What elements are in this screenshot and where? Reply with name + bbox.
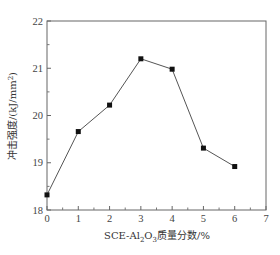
data-point-marker <box>138 56 143 61</box>
data-point-marker <box>45 192 50 197</box>
data-point-marker <box>107 103 112 108</box>
axis-ticks <box>47 21 266 210</box>
y-axis-title: 冲击强度/(kJ/mm2) <box>6 72 18 160</box>
data-point-marker <box>232 164 237 169</box>
data-point-marker <box>170 67 175 72</box>
y-tick-label: 22 <box>33 16 44 27</box>
x-tick-label: 7 <box>263 213 268 224</box>
y-tick-labels: 1819202122 <box>33 16 44 216</box>
plot-frame <box>47 21 266 210</box>
x-tick-label: 3 <box>138 213 143 224</box>
y-tick-label: 18 <box>33 205 44 216</box>
x-tick-label: 1 <box>76 213 81 224</box>
y-tick-label: 19 <box>33 157 44 168</box>
y-tick-label: 21 <box>33 63 44 74</box>
x-tick-label: 2 <box>107 213 112 224</box>
x-tick-label: 4 <box>170 213 176 224</box>
data-point-marker <box>201 146 206 151</box>
series-markers <box>45 56 238 197</box>
data-point-marker <box>76 129 81 134</box>
x-tick-label: 6 <box>232 213 237 224</box>
x-tick-labels: 01234567 <box>44 213 268 224</box>
x-axis-title: SCE-Al2O3质量分数/% <box>104 229 210 244</box>
y-tick-label: 20 <box>33 110 44 121</box>
line-chart: 01234567 1819202122 SCE-Al2O3质量分数/% 冲击强度… <box>0 0 280 255</box>
plot-border <box>47 21 266 210</box>
x-tick-label: 0 <box>44 213 49 224</box>
x-tick-label: 5 <box>201 213 206 224</box>
series-line <box>47 59 235 195</box>
